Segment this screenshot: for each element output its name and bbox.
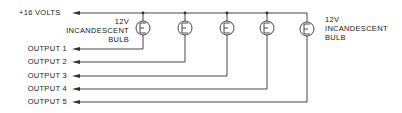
bulb-label-left-line2: INCANDESCENT (60, 27, 129, 35)
output-label-4: OUTPUT 4 (5, 85, 67, 93)
output-label-2: OUTPUT 2 (5, 58, 67, 66)
bulb-label-right-line2: INCANDESCENT (325, 25, 388, 33)
output-label-3: OUTPUT 3 (5, 72, 67, 80)
bulb-label-right-line1: 12V (325, 16, 339, 24)
bulb-label-right-line3: BULB (325, 34, 346, 42)
output-label-5: OUTPUT 5 (5, 98, 67, 106)
bulb-label-left-line1: 12V (60, 18, 129, 26)
supply-label: +16 VOLTS (19, 9, 61, 17)
bulb-label-left-line3: BULB (60, 36, 129, 44)
output-label-1: OUTPUT 1 (5, 45, 67, 53)
